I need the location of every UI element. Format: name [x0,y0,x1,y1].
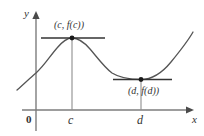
local-maximum-label: (c, f(c)) [54,20,84,30]
local-minimum-point [139,77,144,82]
y-axis-arrowhead [32,11,39,19]
function-curve [17,32,193,90]
local-minimum-label: (d, f(d)) [128,86,159,96]
x-axis-label: x [192,114,197,125]
x-tick-label-c: c [68,114,73,126]
local-maximum-point [70,36,75,41]
x-tick-label-d: d [137,114,143,126]
function-graph-figure: y x 0 c d (c, f(c)) (d, f(d)) [0,0,204,136]
origin-label: 0 [26,114,32,125]
y-axis-label: y [24,8,29,19]
